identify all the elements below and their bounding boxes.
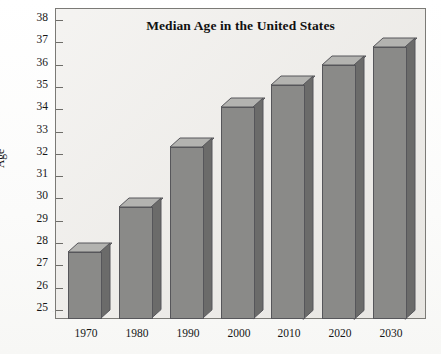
bar-front-face <box>221 107 255 319</box>
y-axis-tick <box>56 310 63 311</box>
x-axis-tick-label: 1990 <box>161 327 215 339</box>
y-axis-tick-label: 36 <box>22 56 48 68</box>
y-axis-tick <box>56 221 63 222</box>
bar-front-face <box>373 47 407 319</box>
y-axis-title: Age <box>0 149 6 168</box>
x-axis-tick-label: 1980 <box>110 327 164 339</box>
x-axis-tick-label: 2010 <box>262 327 316 339</box>
bar-2000 <box>221 98 265 319</box>
y-axis-tick-label: 29 <box>22 212 48 224</box>
bar-1970 <box>68 243 112 319</box>
y-axis-tick-label: 26 <box>22 279 48 291</box>
y-axis-tick-label: 38 <box>22 11 48 23</box>
x-axis-tick-label: 1970 <box>59 327 113 339</box>
bar-front-face <box>322 65 356 319</box>
y-axis-tick <box>56 176 63 177</box>
y-axis-tick-label: 37 <box>22 33 48 45</box>
y-axis-tick-label: 31 <box>22 167 48 179</box>
y-axis-tick-label: 30 <box>22 189 48 201</box>
y-axis-tick <box>56 109 63 110</box>
bar-front-face <box>68 252 102 319</box>
bar-1990 <box>170 138 214 319</box>
y-axis-tick <box>56 288 63 289</box>
x-axis-tick-label: 2030 <box>364 327 418 339</box>
x-axis-tick-label: 2020 <box>313 327 367 339</box>
y-axis-tick <box>56 198 63 199</box>
chart-title: Median Age in the United States <box>56 18 425 34</box>
y-axis-tick <box>56 87 63 88</box>
plot-area: Median Age in the United States <box>55 8 426 319</box>
y-axis-tick <box>56 42 63 43</box>
y-axis-tick <box>56 132 63 133</box>
y-axis-tick-label: 35 <box>22 78 48 90</box>
bar-2010 <box>271 76 315 319</box>
bar-2030 <box>373 38 417 319</box>
bar-front-face <box>170 147 204 319</box>
y-axis-tick-label: 34 <box>22 100 48 112</box>
bar-front-face <box>271 85 305 319</box>
y-axis-tick <box>56 265 63 266</box>
y-axis-tick <box>56 65 63 66</box>
y-axis-tick-label: 25 <box>22 301 48 313</box>
chart-figure: Median Age in the United States 25262728… <box>0 0 441 354</box>
y-axis-tick-label: 32 <box>22 145 48 157</box>
y-axis-tick <box>56 154 63 155</box>
bar-2020 <box>322 56 366 319</box>
bar-1980 <box>119 198 163 319</box>
y-axis-tick-label: 33 <box>22 123 48 135</box>
y-axis-tick-label: 28 <box>22 234 48 246</box>
x-axis-tick-label: 2000 <box>212 327 266 339</box>
bar-front-face <box>119 207 153 319</box>
y-axis-tick <box>56 243 63 244</box>
y-axis-tick-label: 27 <box>22 256 48 268</box>
